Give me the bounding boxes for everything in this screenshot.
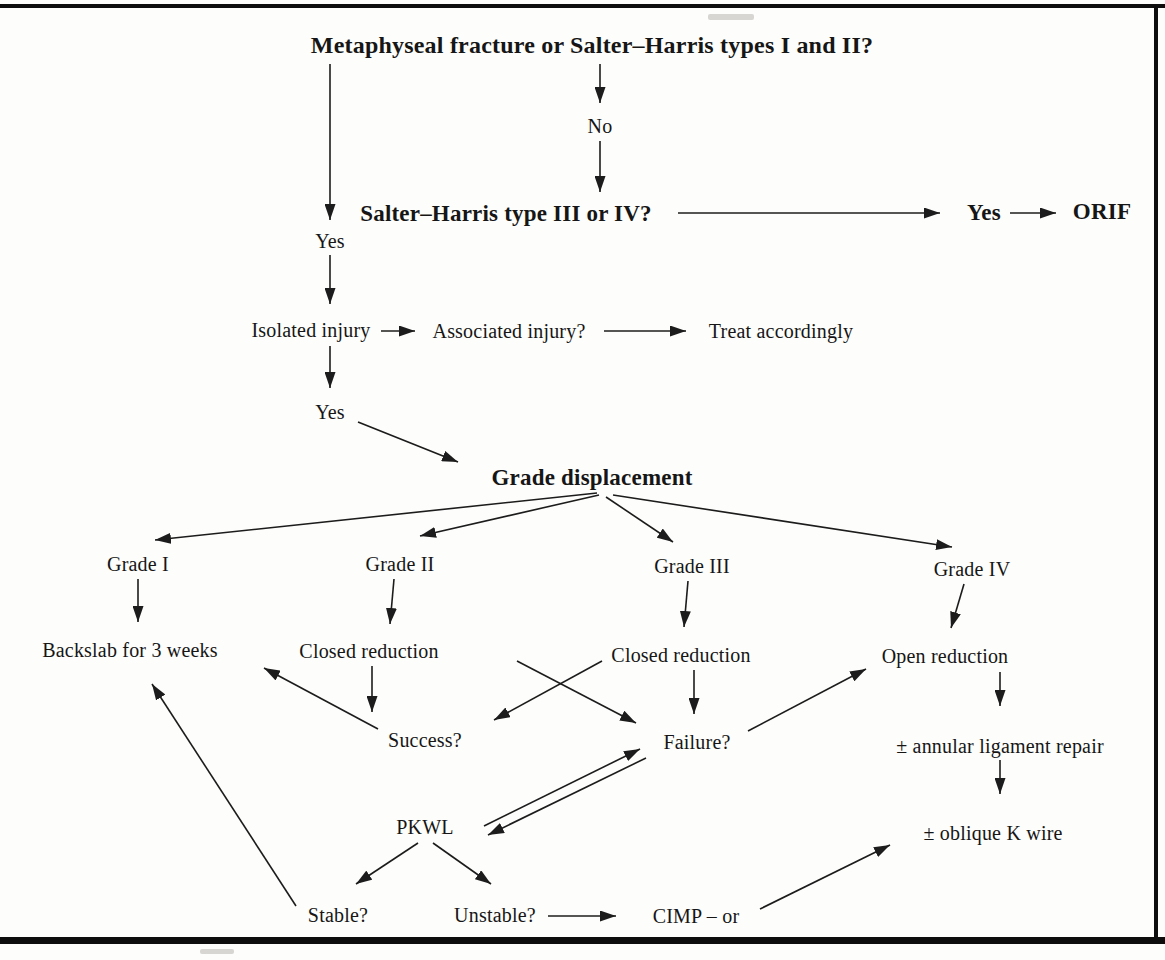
node-failure: Failure? [663, 731, 730, 753]
node-yes-orif: Yes [967, 200, 1001, 225]
arrow-failure-to-openred [748, 669, 866, 731]
arrow-pkwl-to-unstable [433, 843, 491, 884]
arrow-pkwl-to-failure [484, 749, 640, 826]
node-annular-ligament-repair: ± annular ligament repair [896, 735, 1104, 757]
flowchart-figure: Metaphyseal fracture or Salter–Harris ty… [0, 0, 1165, 960]
arrow-fan-grade1 [155, 493, 597, 540]
node-no: No [588, 115, 613, 137]
node-grade-3: Grade III [654, 555, 730, 577]
arrow-fan-grade3 [606, 497, 673, 542]
arrow-grade3-to-closed2 [684, 581, 688, 627]
node-isolated-injury: Isolated injury [251, 319, 370, 341]
node-open-reduction: Open reduction [882, 645, 1009, 667]
node-treat-accordingly: Treat accordingly [709, 320, 853, 342]
node-yes-1: Yes [315, 230, 345, 252]
arrow-fan-grade4 [613, 495, 952, 547]
arrow-cimp-to-oblique [760, 845, 890, 909]
arrow-stable-to-backslab [152, 684, 296, 906]
node-oblique-k-wire: ± oblique K wire [923, 822, 1062, 844]
arrow-grade4-to-openred [951, 584, 964, 628]
node-grade-2: Grade II [366, 553, 435, 575]
arrow-closed1-to-failure [517, 661, 636, 723]
node-title: Metaphyseal fracture or Salter–Harris ty… [311, 32, 873, 58]
arrow-closed2-to-success [494, 661, 602, 720]
node-associated-injury: Associated injury? [432, 320, 585, 342]
node-orif: ORIF [1073, 199, 1131, 224]
node-closed-reduction-1: Closed reduction [299, 640, 438, 662]
node-closed-reduction-2: Closed reduction [611, 644, 750, 666]
node-grade-displacement: Grade displacement [492, 465, 693, 490]
node-success: Success? [388, 729, 462, 751]
arrow-pkwl-to-stable [356, 843, 418, 884]
node-pkwl: PKWL [396, 816, 453, 838]
arrow-grade2-to-closed1 [390, 579, 394, 624]
node-unstable: Unstable? [454, 904, 536, 926]
node-stable: Stable? [308, 904, 368, 926]
node-cimp-or: CIMP – or [653, 905, 740, 927]
node-backslab: Backslab for 3 weeks [42, 639, 218, 661]
node-grade-1: Grade I [107, 553, 169, 575]
arrow-success-to-backslab [264, 668, 378, 729]
node-salter-harris-3-4: Salter–Harris type III or IV? [360, 201, 652, 226]
node-yes-2: Yes [315, 401, 345, 423]
node-grade-4: Grade IV [934, 558, 1011, 580]
arrow-yes2-to-gradedisp [358, 422, 458, 462]
arrow-fan-grade2 [420, 495, 599, 536]
arrow-failure-to-pkwl [488, 758, 646, 835]
